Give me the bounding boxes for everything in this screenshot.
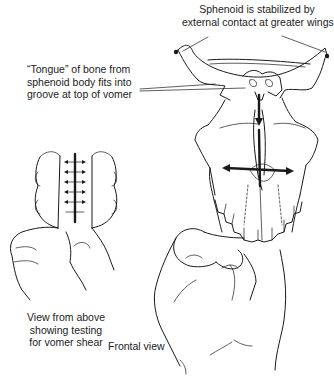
sphenoid-stabilized-label: Sphenoid is stabilized by external conta… xyxy=(182,3,332,28)
label-line: Sphenoid is stabilized by xyxy=(182,3,332,16)
label-line: external contact at greater wings xyxy=(182,16,332,29)
label-line: View from above xyxy=(16,311,116,324)
label-line: showing testing xyxy=(16,324,116,337)
label-line: groove at top of vomer xyxy=(27,88,132,101)
view-from-above-label: View from above showing testing for vome… xyxy=(16,311,116,349)
hand-frontal xyxy=(154,229,285,374)
label-line: Frontal view xyxy=(108,340,165,353)
tongue-of-bone-label: “Tongue” of bone from sphenoid body fits… xyxy=(27,63,132,101)
label-line: for vomer shear xyxy=(16,336,116,349)
label-line: sphenoid body fits into xyxy=(27,76,132,89)
frontal-view-label: Frontal view xyxy=(108,340,165,353)
sphenoid-bone xyxy=(174,45,329,100)
label-line: “Tongue” of bone from xyxy=(27,63,132,76)
palate-view xyxy=(10,152,116,300)
leader-lines xyxy=(140,36,325,91)
